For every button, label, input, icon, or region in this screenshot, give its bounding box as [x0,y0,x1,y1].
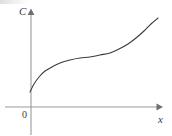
y-axis-arrowhead [28,9,35,16]
figure-canvas: C x 0 [0,0,172,135]
y-axis-label: C [19,6,26,17]
axes-group [5,9,163,136]
x-axis-arrowhead [157,103,164,110]
origin-label: 0 [22,110,27,120]
x-axis-label: x [158,114,163,125]
curve-group [30,18,158,92]
cost-curve [30,18,158,92]
